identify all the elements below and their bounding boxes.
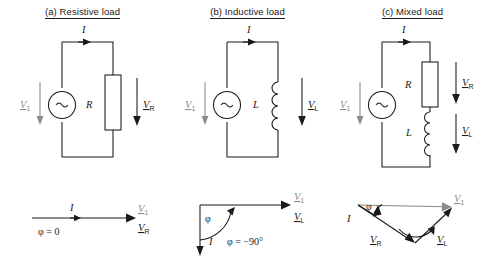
current-label: I	[246, 24, 251, 35]
vl-arrow-head-icon	[298, 116, 306, 126]
resistor-label: R	[404, 79, 412, 90]
phasor-b-angle-label: φ	[205, 213, 211, 224]
current-label: I	[81, 24, 86, 35]
phasor-b-i-arrow-head-icon	[196, 246, 203, 256]
source-voltage-label: V1	[340, 99, 350, 112]
current-arrow-head-icon	[403, 39, 411, 46]
phasor-b-current-label: I	[208, 236, 213, 247]
inductor-label: L	[405, 127, 412, 138]
source-voltage-label: V1	[20, 99, 30, 112]
resistor-symbol	[105, 75, 121, 130]
wire-top	[382, 42, 430, 62]
source-voltage-label: V1	[185, 99, 195, 112]
inductor-label: L	[252, 99, 259, 110]
phasor-a-i-arrow-head-icon	[74, 215, 81, 221]
vl-arrow-head-icon	[452, 144, 460, 154]
inductor-symbol	[425, 112, 431, 156]
panel-inductive-load: (b) Inductive load I V1 L	[165, 0, 330, 268]
phasor-b-v1-label: V1	[294, 191, 304, 204]
figure-canvas: (a) Resistive load I	[0, 0, 495, 268]
phasor-a-vr-label: VR	[138, 222, 149, 235]
ac-source-tilde-icon	[56, 103, 68, 107]
vl-label: VL	[308, 99, 318, 112]
wire-top	[62, 42, 113, 75]
vl-label: VL	[462, 125, 472, 138]
phasor-c-vr-label: VR	[370, 234, 381, 247]
phasor-a-v1-label: V1	[138, 203, 148, 216]
wire-top	[227, 42, 278, 82]
source-voltage-arrow-head-icon	[357, 116, 364, 125]
ac-source-tilde-icon	[376, 103, 388, 107]
vr-label: VR	[462, 77, 473, 90]
vr-arrow-head-icon	[452, 94, 460, 104]
phasor-b-vl-label: VL	[294, 211, 304, 224]
vr-label: VR	[143, 99, 154, 112]
panel-c-graphics: I V1 R L VR VL	[330, 0, 495, 268]
phasor-b-phase-text: φ = −90°	[227, 236, 263, 247]
current-label: I	[401, 24, 406, 35]
source-voltage-arrow-head-icon	[37, 116, 44, 125]
phasor-b-v-arrow-head-icon	[281, 200, 291, 209]
panel-resistive-load: (a) Resistive load I	[0, 0, 165, 268]
source-voltage-arrow-head-icon	[202, 116, 209, 125]
resistor-label: R	[85, 99, 93, 110]
panel-b-graphics: I V1 L VL φ I	[165, 0, 330, 268]
phasor-c-angle-label: φ	[366, 201, 372, 212]
wire-bottom	[227, 122, 278, 157]
phasor-a-phase-text: φ = 0	[38, 226, 59, 237]
phasor-c-v1-label: V1	[454, 193, 464, 206]
phasor-a-current-label: I	[69, 202, 74, 213]
phasor-c-i-arrow-head-icon	[373, 205, 382, 217]
panel-mixed-load: (c) Mixed load I V1	[330, 0, 495, 268]
vr-arrow-head-icon	[133, 116, 141, 126]
phasor-a-v-arrow-head-icon	[126, 213, 136, 222]
resistor-symbol	[422, 62, 438, 107]
current-arrow-head-icon	[83, 39, 91, 46]
phasor-c-current-label: I	[346, 213, 351, 224]
panel-a-graphics: I V1 R VR I φ = 0 V1	[0, 0, 165, 268]
phasor-c-vl-label: VL	[437, 234, 447, 247]
current-arrow-head-icon	[248, 39, 256, 46]
ac-source-tilde-icon	[221, 103, 233, 107]
inductor-symbol	[272, 82, 278, 130]
